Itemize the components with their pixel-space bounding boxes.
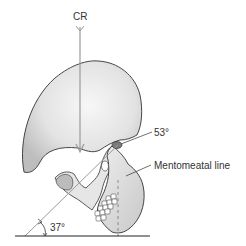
angle-arc-icon	[40, 222, 45, 236]
zygoma-shape	[56, 174, 73, 190]
mastoid-foramen	[102, 161, 109, 171]
lower-angle-label: 37°	[50, 223, 65, 233]
skull-positioning-diagram: CR 53° Mentomeatal line 37°	[0, 0, 246, 246]
mentomeatal-line-label: Mentomeatal line	[154, 161, 230, 171]
central-ray-label: CR	[73, 12, 87, 22]
upper-angle-label: 53°	[154, 128, 169, 138]
diagram-canvas	[0, 0, 246, 246]
ear-meatus	[112, 142, 122, 149]
cranium-shape	[22, 61, 141, 173]
